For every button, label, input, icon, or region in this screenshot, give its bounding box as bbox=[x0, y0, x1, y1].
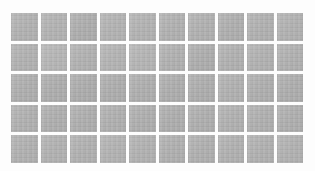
grid-tile[interactable] bbox=[70, 105, 97, 133]
grid-tile[interactable] bbox=[41, 135, 68, 163]
grid-tile[interactable] bbox=[129, 105, 156, 133]
grid-tile[interactable] bbox=[129, 135, 156, 163]
grid-tile[interactable] bbox=[11, 105, 38, 133]
grid-tile[interactable] bbox=[70, 135, 97, 163]
grid-tile[interactable] bbox=[277, 105, 304, 133]
grid-tile[interactable] bbox=[11, 74, 38, 102]
grid-tile[interactable] bbox=[41, 44, 68, 72]
grid-tile[interactable] bbox=[277, 74, 304, 102]
grid-tile[interactable] bbox=[159, 135, 186, 163]
grid-tile[interactable] bbox=[247, 135, 274, 163]
grid-tile[interactable] bbox=[218, 74, 245, 102]
grid-tile[interactable] bbox=[100, 74, 127, 102]
grid-tile[interactable] bbox=[188, 105, 215, 133]
grid-tile[interactable] bbox=[129, 13, 156, 41]
grid-tile[interactable] bbox=[188, 44, 215, 72]
grid-tile[interactable] bbox=[218, 44, 245, 72]
grid-tile[interactable] bbox=[41, 74, 68, 102]
tile-grid bbox=[11, 13, 303, 163]
grid-tile[interactable] bbox=[188, 74, 215, 102]
grid-tile[interactable] bbox=[100, 135, 127, 163]
grid-tile[interactable] bbox=[100, 44, 127, 72]
grid-tile[interactable] bbox=[11, 135, 38, 163]
grid-tile[interactable] bbox=[129, 74, 156, 102]
grid-tile[interactable] bbox=[218, 13, 245, 41]
grid-tile[interactable] bbox=[218, 105, 245, 133]
grid-tile[interactable] bbox=[159, 44, 186, 72]
grid-tile[interactable] bbox=[277, 135, 304, 163]
grid-tile[interactable] bbox=[70, 13, 97, 41]
grid-tile[interactable] bbox=[159, 13, 186, 41]
grid-tile[interactable] bbox=[41, 13, 68, 41]
grid-tile[interactable] bbox=[100, 105, 127, 133]
grid-tile[interactable] bbox=[11, 44, 38, 72]
grid-tile[interactable] bbox=[188, 13, 215, 41]
grid-tile[interactable] bbox=[70, 44, 97, 72]
tile-grid-canvas bbox=[0, 0, 315, 171]
grid-tile[interactable] bbox=[218, 135, 245, 163]
grid-tile[interactable] bbox=[247, 13, 274, 41]
grid-tile[interactable] bbox=[247, 44, 274, 72]
grid-tile[interactable] bbox=[188, 135, 215, 163]
grid-tile[interactable] bbox=[11, 13, 38, 41]
grid-tile[interactable] bbox=[159, 105, 186, 133]
grid-tile[interactable] bbox=[247, 74, 274, 102]
grid-tile[interactable] bbox=[100, 13, 127, 41]
grid-tile[interactable] bbox=[41, 105, 68, 133]
grid-tile[interactable] bbox=[277, 13, 304, 41]
grid-tile[interactable] bbox=[247, 105, 274, 133]
grid-tile[interactable] bbox=[129, 44, 156, 72]
grid-tile[interactable] bbox=[277, 44, 304, 72]
grid-tile[interactable] bbox=[159, 74, 186, 102]
grid-tile[interactable] bbox=[70, 74, 97, 102]
